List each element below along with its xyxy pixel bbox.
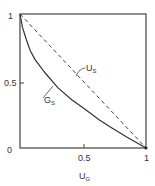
y-tick-label-zero: 0 [7,145,12,155]
us-curve-label: US [86,63,97,74]
y-tick-label-one: 1 [8,11,13,21]
gs-curve-label: GS [44,95,55,106]
end-point-marker [144,146,147,149]
x-tick-label-one: 1 [144,153,149,163]
us-leader-line [76,68,85,76]
x-axis-label: UG [79,171,91,182]
chart: 1 0.5 0 0.5 1 UG US GS [0,0,155,186]
us-dashed-line [20,14,146,148]
y-tick-label-half: 0.5 [4,78,17,88]
x-tick-label-half: 0.5 [78,153,91,163]
